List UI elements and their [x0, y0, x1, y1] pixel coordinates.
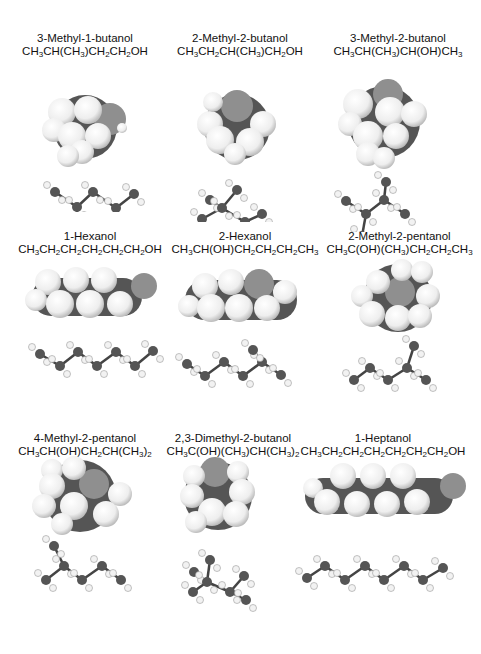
molecule-panel-2-methyl-2-butanol: 2-Methyl-2-butanol CH3CH2CH(CH3)CH2OH [165, 32, 315, 217]
space-filling-model [10, 32, 160, 212]
molecule-panel-4-methyl-2-pentanol: 4-Methyl-2-pentanol CH3CH(OH)CH2CH(CH3)2 [10, 432, 160, 627]
molecule-panel-2-hexanol: 2-Hexanol CH3CH(OH)CH2CH2CH2CH3 [165, 230, 325, 390]
molecule-panel-2-methyl-2-pentanol: 2-Methyl-2-pentanol CH3C(OH)(CH3)CH2CH2C… [318, 230, 481, 410]
molecule-panel-3-methyl-2-butanol: 3-Methyl-2-butanol CH3CH(CH3)CH(OH)CH3 [318, 32, 478, 217]
space-filling-model [165, 230, 325, 400]
space-filling-model-3-methyl-1-butanol [42, 95, 127, 167]
space-filling-model [285, 432, 481, 627]
space-filling-model [10, 230, 170, 400]
space-filling-model [318, 230, 481, 410]
molecule-panel-1-hexanol: 1-Hexanol CH3CH2CH2CH2CH2CH2OH [10, 230, 170, 390]
space-filling-model [318, 32, 478, 232]
molecule-panel-3-methyl-1-butanol: 3-Methyl-1-butanol CH3CH(CH3)CH2CH2OH [10, 32, 160, 217]
space-filling-model [10, 432, 160, 627]
molecule-panel-1-heptanol: 1-Heptanol CH3CH2CH2CH2CH2CH2CH2OH [285, 432, 481, 627]
space-filling-model [165, 32, 315, 222]
